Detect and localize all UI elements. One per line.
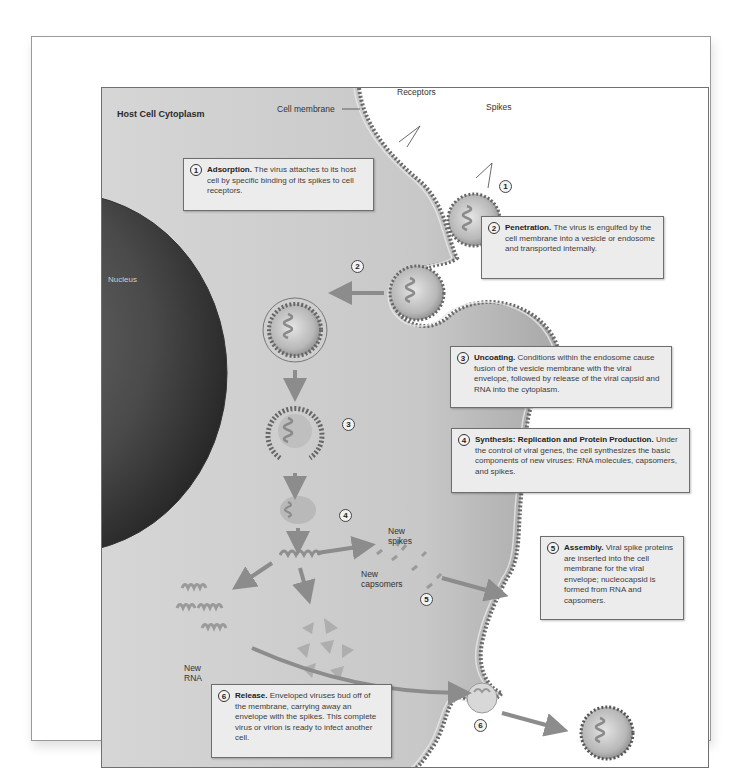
step-marker-6: 6 xyxy=(474,719,487,732)
step-marker-2: 2 xyxy=(351,260,364,273)
step-marker-3: 3 xyxy=(342,418,355,431)
label-new-rna: New RNA xyxy=(184,663,202,683)
label-cell-membrane: Cell membrane xyxy=(277,104,335,114)
label-spikes: Spikes xyxy=(486,102,512,112)
label-receptors: Receptors xyxy=(397,87,436,97)
step-marker-1: 1 xyxy=(499,180,512,193)
virus-assembling xyxy=(467,683,497,713)
step-marker-4: 4 xyxy=(339,509,352,522)
step-box-release: 6 Release. Enveloped viruses bud off of … xyxy=(211,684,392,758)
step-box-penetration: 2 Penetration. The virus is engulfed by … xyxy=(481,216,664,279)
step-marker-5: 5 xyxy=(420,593,433,606)
figure-panel: Host Cell Cytoplasm Cell membrane Recept… xyxy=(101,87,709,768)
step-box-adsorption: 1 Adsorption. The virus attaches to its … xyxy=(183,158,374,211)
released-capsid xyxy=(280,496,316,524)
label-new-capsomers: New capsomers xyxy=(361,569,403,589)
virus-penetrating xyxy=(390,266,444,320)
label-new-spikes: New spikes xyxy=(388,526,412,546)
virus-endosome xyxy=(263,298,327,362)
step-box-uncoating: 3 Uncoating. Conditions within the endos… xyxy=(450,346,672,408)
label-nucleus: Nucleus xyxy=(108,275,137,284)
figure-title: Host Cell Cytoplasm xyxy=(117,109,205,119)
step-box-synthesis: 4 Synthesis: Replication and Protein Pro… xyxy=(451,428,690,493)
step-box-assembly: 5 Assembly. Viral spike proteins are ins… xyxy=(540,536,684,620)
figure-outer-frame: Host Cell Cytoplasm Cell membrane Recept… xyxy=(31,36,711,741)
virus-released xyxy=(581,707,633,759)
